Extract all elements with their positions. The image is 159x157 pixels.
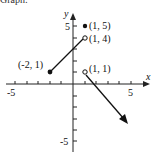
point-open-1-4 <box>83 36 87 40</box>
point-label-1-5: (1, 5) <box>89 20 111 32</box>
point-closed-neg2-1 <box>48 70 53 75</box>
x-tick-label-5: 5 <box>128 87 133 98</box>
point-closed-1-5 <box>83 24 87 28</box>
point-label-neg2-1: (-2, 1) <box>18 59 43 71</box>
x-tick-label-neg5: -5 <box>7 87 15 98</box>
point-label-1-4: (1, 4) <box>89 33 111 45</box>
point-open-1-1 <box>83 70 87 74</box>
piecewise-graph: x y -5 5 5 -5 (1, 5) (1, 4) (-2, 1) (1, … <box>0 0 159 157</box>
x-axis-label: x <box>145 71 151 82</box>
y-tick-label-neg5: -5 <box>60 136 68 147</box>
y-axis-label: y <box>63 8 69 19</box>
segment-2 <box>86 75 124 119</box>
y-tick-label-5: 5 <box>65 21 70 32</box>
point-label-1-1: (1, 1) <box>89 63 111 75</box>
y-axis <box>70 13 77 152</box>
segment-1 <box>50 39 83 72</box>
